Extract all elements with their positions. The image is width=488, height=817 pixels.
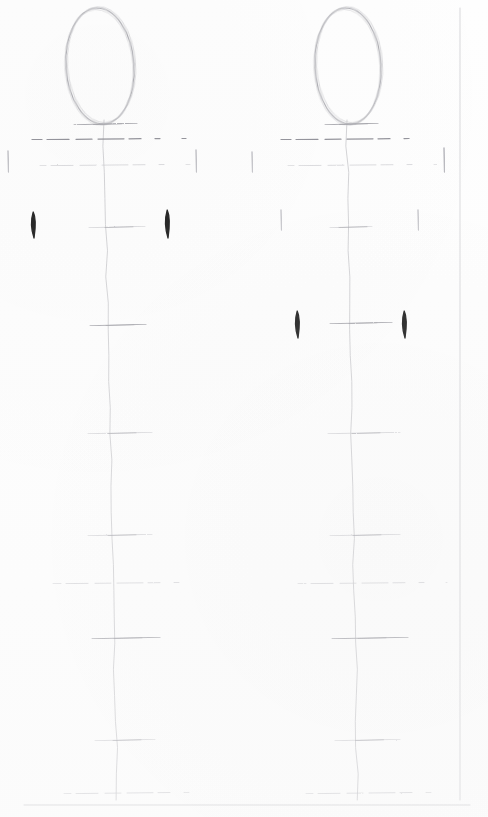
right-shoulder-tick xyxy=(196,150,197,172)
paper-background xyxy=(0,0,488,817)
left-shoulder-tick xyxy=(252,152,253,172)
sketch-sheet xyxy=(0,0,488,817)
left-shoulder-tick xyxy=(8,151,9,172)
right-shoulder-tick xyxy=(444,148,445,172)
left-rib-tick xyxy=(281,210,282,230)
right-rib-tick xyxy=(418,210,419,230)
sketch-canvas xyxy=(0,0,488,817)
